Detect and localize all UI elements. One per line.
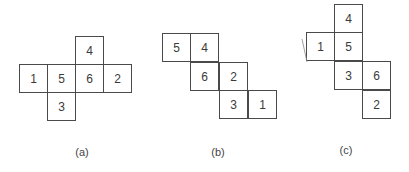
stray-mark <box>0 0 409 172</box>
